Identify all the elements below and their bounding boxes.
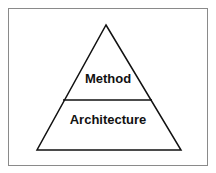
pyramid-outline	[37, 25, 181, 150]
layer-label-architecture: Architecture	[38, 112, 178, 127]
layer-label-method: Method	[58, 71, 158, 86]
pyramid-diagram	[0, 0, 216, 173]
